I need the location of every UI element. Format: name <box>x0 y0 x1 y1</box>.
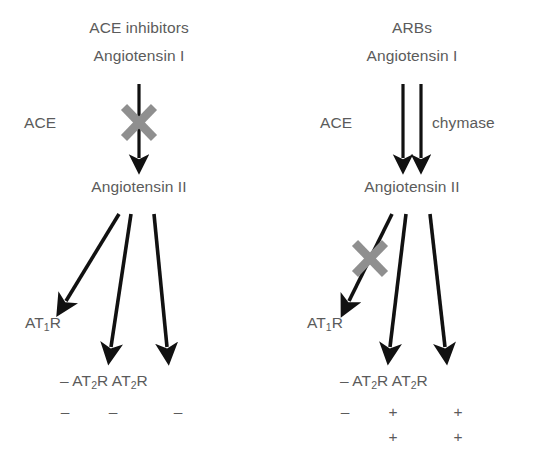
right-block-x-icon <box>355 243 385 274</box>
right-drug-label: ARBs <box>392 20 432 36</box>
left-at2-base: AT <box>72 372 91 389</box>
right-at1-suffix: R <box>332 314 343 331</box>
right-receptor-arrows <box>349 214 445 347</box>
left-at2-suffix: R <box>97 372 108 389</box>
right-effect-at1-row1: – <box>341 404 350 420</box>
right-substrate-label: Angiotensin I <box>367 48 458 64</box>
diagram-arrows-layer <box>0 0 545 459</box>
left-product-label: Angiotensin II <box>91 179 186 195</box>
right-at1-subscript: 1 <box>326 321 332 333</box>
right-at2-suffix: R <box>377 372 388 389</box>
right-receptor-at1-label: AT1R <box>307 315 343 331</box>
left-receptor-at1-label: AT1R <box>25 315 61 331</box>
left-at2b-base: AT <box>112 372 131 389</box>
right-at2b-suffix: R <box>417 372 428 389</box>
right-effect-at2-row2: + <box>388 429 397 445</box>
right-at2-base: AT <box>352 372 371 389</box>
right-at2b-base: AT <box>392 372 411 389</box>
left-effect-at2-row1: – <box>109 404 118 420</box>
right-enzyme-ace-label: ACE <box>320 115 352 131</box>
right-at1-base: AT <box>307 314 326 331</box>
right-effect-at2b-row1: + <box>453 404 462 420</box>
left-drug-label: ACE inhibitors <box>89 20 189 36</box>
right-enzyme-chymase-label: chymase <box>432 115 495 131</box>
left-at2-subscript: 2 <box>91 379 97 391</box>
left-block-x-icon <box>124 107 154 138</box>
left-at2b-subscript: 2 <box>131 379 137 391</box>
left-effect-at2b-row1: – <box>174 404 183 420</box>
left-at1-suffix: R <box>50 314 61 331</box>
left-at1-subscript: 1 <box>44 321 50 333</box>
left-at2b-suffix: R <box>137 372 148 389</box>
right-product-label: Angiotensin II <box>364 179 459 195</box>
right-effect-at2b-row2: + <box>453 429 462 445</box>
left-enzyme-ace-label: ACE <box>24 115 56 131</box>
left-row-lead-sign: – <box>60 372 69 389</box>
right-row-lead-sign: – <box>340 372 349 389</box>
signaling-pathway-diagram: ACE inhibitors Angiotensin I ACE Angiote… <box>0 0 545 459</box>
right-effect-at2-row1: + <box>388 404 397 420</box>
left-receptor-row: – AT2R AT2R <box>60 373 148 389</box>
left-effect-at1-row1: – <box>61 404 70 420</box>
right-at2-subscript: 2 <box>371 379 377 391</box>
right-receptor-row: – AT2R AT2R <box>340 373 428 389</box>
left-at1-base: AT <box>25 314 44 331</box>
right-at2b-subscript: 2 <box>411 379 417 391</box>
right-conversion-arrows <box>403 84 421 158</box>
left-substrate-label: Angiotensin I <box>94 48 185 64</box>
left-receptor-arrows <box>66 214 167 347</box>
